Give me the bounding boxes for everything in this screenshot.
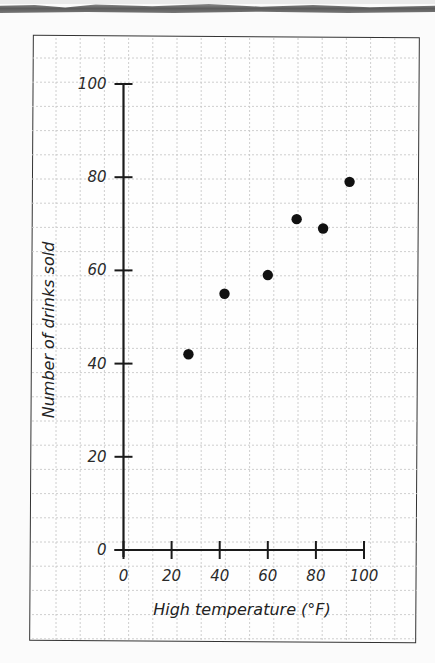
y-tick-label: 60: [87, 261, 106, 279]
y-tick-label: 40: [87, 355, 106, 373]
x-axis-ticks: 020406080100: [119, 541, 379, 585]
x-tick-label: 0: [119, 567, 129, 585]
x-tick-label: 20: [162, 567, 181, 585]
data-point: [344, 177, 354, 187]
y-tick-label: 20: [87, 448, 106, 466]
x-tick-label: 80: [306, 567, 325, 585]
y-tick-label: 100: [78, 75, 107, 93]
data-point: [263, 270, 273, 280]
data-point: [219, 289, 229, 299]
x-tick-label: 100: [350, 567, 379, 585]
data-point: [291, 214, 301, 224]
y-axis-title: Number of drinks sold: [39, 241, 58, 418]
y-tick-label: 0: [97, 541, 107, 559]
data-point: [183, 349, 193, 359]
x-tick-label: 60: [258, 567, 277, 585]
x-axis-title: High temperature (°F): [153, 600, 331, 619]
y-tick-label: 80: [87, 168, 106, 186]
x-tick-label: 40: [210, 567, 229, 585]
axes: 020406080100 020406080100: [78, 75, 378, 585]
scatter-plot: 020406080100 020406080100 High temperatu…: [0, 0, 435, 663]
data-point: [318, 223, 328, 233]
data-points: [183, 177, 355, 360]
